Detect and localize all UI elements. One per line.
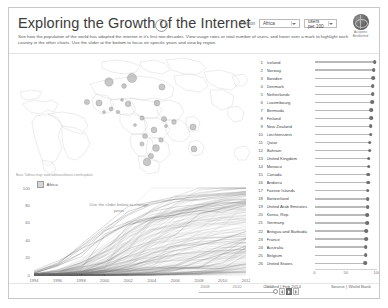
map-bubble[interactable] [148, 153, 153, 158]
ranking-bar-track [315, 219, 378, 227]
ranking-value-dot[interactable] [367, 157, 371, 161]
ranking-bar-track [315, 259, 378, 267]
region-select[interactable]: Africa [259, 19, 300, 28]
dashboard-header: Exploring the Growth of the Internet i S… [9, 8, 379, 54]
world-map-chart[interactable]: Basic Tableau map: www.tableausoftware.c… [14, 56, 250, 178]
map-bubble[interactable] [127, 73, 136, 82]
ranking-value-dot[interactable] [365, 213, 369, 217]
map-bubble[interactable] [96, 100, 102, 106]
ranking-value-dot[interactable] [371, 84, 375, 88]
map-bubble[interactable] [164, 124, 167, 127]
ranking-position: 8 [253, 116, 263, 121]
ranking-row[interactable]: 9New Zealand [253, 122, 377, 130]
ranking-row[interactable]: 4Denmark [253, 82, 377, 90]
ranking-row[interactable]: 26United States [253, 259, 377, 267]
ranking-row[interactable]: 2Norway [253, 66, 377, 74]
y-tick-label: 100 [23, 186, 31, 191]
timeseries-chart[interactable]: Africa Use the slider below to change ye… [14, 180, 250, 292]
map-bubble[interactable] [172, 120, 177, 125]
map-bubble[interactable] [134, 124, 137, 127]
ranking-row[interactable]: 25Belgium [253, 251, 377, 259]
ranking-bar [315, 126, 371, 127]
ranking-row[interactable]: 10Liechtenstein [253, 130, 377, 138]
ranking-value-dot[interactable] [370, 116, 374, 120]
map-bubble[interactable] [191, 146, 197, 152]
ranking-value-dot[interactable] [373, 60, 377, 64]
ranking-row[interactable]: 15Canada [253, 171, 377, 179]
ranking-row[interactable]: 19United Arab Emirates [253, 203, 377, 211]
ranking-row[interactable]: 5Netherlands [253, 90, 377, 98]
ranking-value-dot[interactable] [372, 68, 376, 72]
ranking-value-dot[interactable] [370, 100, 374, 104]
ranking-value-dot[interactable] [364, 253, 368, 257]
map-bubble[interactable] [140, 116, 144, 120]
ranking-value-dot[interactable] [369, 124, 373, 128]
ranking-row[interactable]: 12Bahrain [253, 147, 377, 155]
ranking-value-dot[interactable] [369, 133, 373, 137]
map-bubble[interactable] [121, 99, 124, 102]
ranking-row[interactable]: 1Iceland [253, 58, 377, 66]
ranking-row[interactable]: 8Finland [253, 114, 377, 122]
ranking-country-name: Iceland [267, 60, 315, 65]
ranking-row[interactable]: 21Germany [253, 219, 377, 227]
map-bubble[interactable] [140, 142, 144, 146]
map-bubble[interactable] [109, 107, 113, 111]
ranking-value-dot[interactable] [368, 149, 372, 153]
map-bubble[interactable] [84, 99, 89, 104]
info-icon[interactable]: i [155, 19, 168, 32]
ranking-row[interactable]: 17Faeroe Islands [253, 187, 377, 195]
ranking-row[interactable]: 18Switzerland [253, 195, 377, 203]
ranking-value-dot[interactable] [370, 108, 374, 112]
ranking-value-dot[interactable] [365, 237, 369, 241]
ranking-country-name: Norway [267, 68, 315, 73]
map-bubble[interactable] [122, 84, 127, 89]
map-bubble[interactable] [154, 100, 160, 106]
ranking-position: 2 [253, 68, 263, 73]
map-bubble[interactable] [153, 145, 160, 152]
ranking-value-dot[interactable] [368, 141, 372, 145]
ranking-value-dot[interactable] [365, 221, 369, 225]
map-bubble[interactable] [190, 124, 196, 130]
ranking-row[interactable]: 6Luxembourg [253, 98, 377, 106]
map-bubble[interactable] [143, 134, 148, 139]
ranking-value-dot[interactable] [371, 76, 375, 80]
metric-select[interactable]: users per 100 [304, 19, 337, 28]
map-bubble[interactable] [151, 127, 157, 133]
map-bubble[interactable] [125, 101, 131, 107]
ranking-row[interactable]: 7Bermuda [253, 106, 377, 114]
ranking-row[interactable]: 22Antigua and Barbuda [253, 227, 377, 235]
ranking-country-name: Qatar [267, 140, 315, 145]
ranking-value-dot[interactable] [366, 205, 370, 209]
map-bubble[interactable] [116, 110, 120, 114]
ranking-row[interactable]: 13United Kingdom [253, 155, 377, 163]
country-ranking-chart[interactable]: 1Iceland2Norway3Sweden4Denmark5Netherlan… [253, 58, 377, 278]
ranking-axis-tick: 0 [313, 270, 315, 275]
map-bubble[interactable] [105, 78, 113, 86]
ranking-value-dot[interactable] [366, 189, 370, 193]
ranking-value-dot[interactable] [364, 245, 368, 249]
ranking-row[interactable]: 24Australia [253, 243, 377, 251]
ranking-row[interactable]: 14Monaco [253, 163, 377, 171]
ranking-row[interactable]: 11Qatar [253, 138, 377, 146]
ranking-value-dot[interactable] [367, 165, 371, 169]
map-bubble[interactable] [159, 138, 164, 143]
map-bubble[interactable] [161, 116, 166, 121]
ranking-bar-track [315, 106, 378, 114]
ranking-row[interactable]: 16Andorra [253, 179, 377, 187]
ranking-value-dot[interactable] [363, 261, 367, 265]
created-date: Created | Feb 2014 [263, 284, 301, 289]
map-bubble[interactable] [103, 111, 106, 114]
map-bubble[interactable] [159, 84, 165, 90]
metric-select-value: users per 100 [308, 19, 326, 29]
ranking-value-dot[interactable] [366, 181, 370, 185]
ranking-value-dot[interactable] [366, 173, 370, 177]
map-bubble[interactable] [143, 158, 151, 166]
ranking-row[interactable]: 3Sweden [253, 74, 377, 82]
ranking-value-dot[interactable] [366, 197, 370, 201]
ranking-row[interactable]: 20Korea, Rep. [253, 211, 377, 219]
ranking-value-dot[interactable] [371, 92, 375, 96]
ranking-value-dot[interactable] [365, 229, 369, 233]
ranking-bar-track [315, 251, 378, 259]
ranking-bar-track [315, 211, 378, 219]
ranking-row[interactable]: 23France [253, 235, 377, 243]
